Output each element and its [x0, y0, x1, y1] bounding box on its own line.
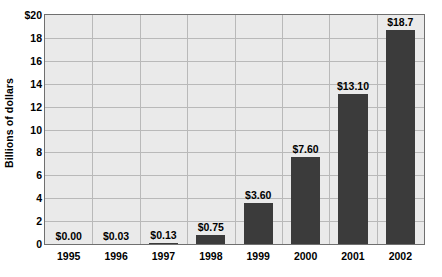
gridline-vertical	[377, 15, 378, 244]
gridline-vertical	[235, 15, 236, 244]
bar-value-label: $3.60	[245, 190, 271, 201]
bar	[196, 235, 225, 244]
bar	[386, 30, 415, 244]
x-axis-tick-label: 1999	[247, 250, 270, 262]
y-axis-tick-label: 14	[14, 78, 42, 89]
bar-value-label: $0.13	[150, 230, 176, 241]
x-axis-tick-labels: 19951996199719981999200020012002	[44, 250, 425, 270]
x-axis-tick-label: 2002	[389, 250, 412, 262]
y-axis-tick-label: 6	[14, 170, 42, 181]
x-axis-tick-label: 1996	[104, 250, 127, 262]
y-axis-tick-labels: $20181614121086420	[14, 0, 42, 260]
bar	[338, 94, 367, 244]
plot-area	[44, 14, 425, 245]
y-axis-tick-label: 10	[14, 124, 42, 135]
y-axis-tick-label: 16	[14, 56, 42, 67]
bar-value-label: $7.60	[292, 144, 318, 155]
gridline-vertical	[140, 15, 141, 244]
bar-value-label: $13.10	[337, 81, 369, 92]
y-axis-tick-label: 18	[14, 33, 42, 44]
bar	[244, 203, 273, 244]
bar-value-label: $0.03	[103, 231, 129, 242]
x-axis-tick-label: 1997	[152, 250, 175, 262]
x-axis-tick-label: 2001	[341, 250, 364, 262]
gridline-vertical	[329, 15, 330, 244]
bar-value-label: $0.00	[56, 231, 82, 242]
bar-chart: Billions of dollars $20181614121086420 1…	[0, 0, 442, 277]
gridline-vertical	[187, 15, 188, 244]
x-axis-tick-label: 2000	[294, 250, 317, 262]
x-axis-tick-label: 1995	[57, 250, 80, 262]
bar-value-label: $0.75	[198, 222, 224, 233]
gridline-vertical	[282, 15, 283, 244]
y-axis-tick-label: $20	[14, 10, 42, 21]
bar	[149, 243, 178, 244]
y-axis-tick-label: 2	[14, 216, 42, 227]
bar	[291, 157, 320, 244]
gridline-vertical	[92, 15, 93, 244]
y-axis-tick-label: 8	[14, 147, 42, 158]
y-axis-tick-label: 4	[14, 193, 42, 204]
y-axis-tick-label: 12	[14, 101, 42, 112]
y-axis-tick-label: 0	[14, 239, 42, 250]
x-axis-tick-label: 1998	[199, 250, 222, 262]
bar-value-label: $18.7	[387, 17, 413, 28]
